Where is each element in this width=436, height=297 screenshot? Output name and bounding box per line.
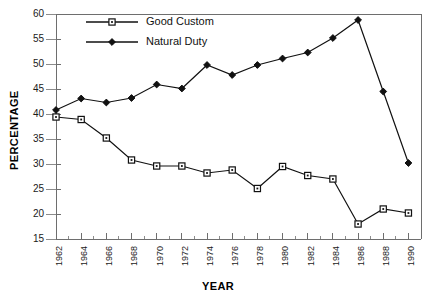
data-point-marker-square-center [332,178,334,180]
series-natural-duty [53,17,412,167]
y-axis-tick-label: 50 [33,58,45,69]
legend-item-good-custom: Good Custom [86,15,214,27]
plot-frame [56,14,421,239]
data-series-layer [53,17,412,227]
y-axis-tick-label: 20 [33,208,45,219]
x-axis-tick-label: 1990 [406,246,416,266]
data-point-marker-diamond [109,39,116,46]
chart-figure: 15202530354045505560 1962196419661968197… [0,0,436,297]
x-axis-tick-label: 1970 [155,246,165,266]
data-point-marker-square-center [357,223,359,225]
y-axis-tick-label: 40 [33,108,45,119]
y-axis-title: PERCENTAGE [8,90,20,170]
data-point-marker-square-center [382,208,384,210]
y-axis-tick-label: 25 [33,183,45,194]
x-axis-tick-label: 1964 [79,246,89,266]
y-axis-tick-marks [46,14,61,239]
data-point-marker-square-center [181,165,183,167]
data-point-marker-square-center [156,165,158,167]
y-axis-tick-label: 60 [33,8,45,19]
chart-legend: Good CustomNatural Duty [86,15,214,47]
data-point-marker-square-center [105,137,107,139]
series-good-custom [53,114,412,227]
x-axis-title: YEAR [202,280,234,292]
data-point-marker-diamond [153,81,160,88]
data-point-marker-diamond [279,55,286,62]
y-axis-tick-label: 35 [33,133,45,144]
data-point-marker-square-center [282,166,284,168]
x-axis-tick-label: 1980 [280,246,290,266]
data-point-marker-square-center [80,119,82,121]
data-point-marker-square-center [408,212,410,214]
x-axis-tick-label: 1984 [331,246,341,266]
x-axis-tick-label: 1978 [255,246,265,266]
data-point-marker-square-center [256,188,258,190]
x-axis-tick-label: 1986 [356,246,366,266]
chart-canvas: 15202530354045505560 1962196419661968197… [0,0,436,297]
x-axis-tick-label: 1962 [54,246,64,266]
x-axis-tick-label: 1976 [230,246,240,266]
data-point-marker-square-center [307,175,309,177]
x-axis-tick-label: 1972 [180,246,190,266]
x-axis-tick-label: 1966 [104,246,114,266]
data-point-marker-square-center [111,21,113,23]
y-axis-tick-label: 15 [33,233,45,244]
data-point-marker-diamond [304,49,311,56]
data-point-marker-square-center [131,159,133,161]
data-point-marker-diamond [128,95,135,102]
legend-label: Natural Duty [146,35,208,47]
legend-label: Good Custom [146,15,214,27]
data-point-marker-square-center [206,172,208,174]
data-point-marker-diamond [78,95,85,102]
x-axis-tick-marks [56,233,421,239]
data-point-marker-diamond [53,107,60,114]
x-axis-tick-label: 1968 [129,246,139,266]
data-point-marker-diamond [103,99,110,106]
y-axis-tick-label: 45 [33,83,45,94]
x-axis-tick-label: 1974 [205,246,215,266]
x-axis-tick-label: 1982 [306,246,316,266]
x-axis-tick-labels: 1962196419661968197019721974197619781980… [54,246,416,266]
data-point-marker-diamond [380,88,387,95]
y-axis-tick-labels: 15202530354045505560 [33,8,45,244]
y-axis-tick-label: 55 [33,33,45,44]
data-point-marker-diamond [229,72,236,79]
data-point-marker-diamond [254,62,261,69]
y-axis-tick-label: 30 [33,158,45,169]
legend-item-natural-duty: Natural Duty [86,35,208,47]
data-point-marker-square-center [231,169,233,171]
x-axis-tick-label: 1988 [381,246,391,266]
data-point-marker-square-center [55,116,57,118]
data-point-marker-diamond [405,160,412,167]
